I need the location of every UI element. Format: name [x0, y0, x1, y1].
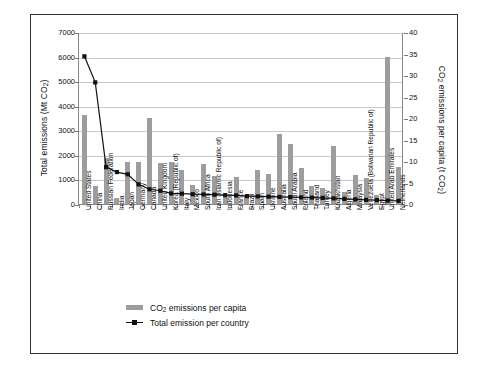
x-axis-label: Japan — [129, 192, 136, 210]
y-axis-right-tick-label: 20 — [409, 115, 439, 123]
x-axis-label: India — [119, 196, 126, 210]
x-axis-label: Korea (Republic of) — [173, 153, 180, 210]
x-axis-label: Mexico — [194, 189, 201, 210]
y-axis-right-tick-mark — [404, 141, 408, 142]
x-axis-label: Turkey — [324, 190, 331, 210]
x-axis-label: Brazil — [249, 194, 256, 211]
x-axis-label: Poland — [303, 189, 310, 210]
y-axis-right-tick-label: 10 — [409, 158, 439, 166]
line-path — [84, 56, 398, 200]
legend-label-total: Total emission per country — [150, 318, 249, 328]
x-axis-label: China — [97, 193, 104, 210]
x-axis-tick-mark — [79, 205, 80, 208]
x-axis-label: Saudi Arabia — [292, 173, 299, 210]
x-axis-label: Netherlands — [400, 174, 407, 210]
y-axis-right-tick-label: 35 — [409, 51, 439, 59]
x-axis-label: Russian Federation — [108, 153, 115, 210]
y-axis-right-tick-mark — [404, 76, 408, 77]
x-axis-label: Spain — [259, 193, 266, 210]
x-axis-label: Kazakhstan — [335, 176, 342, 210]
y-axis-left-tick-label: 3000 — [35, 127, 75, 135]
x-axis-label: Venezuela (Bolivarian Republic of) — [368, 109, 375, 210]
y-axis-left-tick-label: 0 — [35, 201, 75, 209]
y-axis-right-tick-label: 30 — [409, 72, 439, 80]
line-marker — [82, 54, 86, 58]
legend-label-per-capita: CO2 emissions per capita — [150, 303, 246, 313]
y-axis-right-tick-mark — [404, 98, 408, 99]
y-axis-right-tick-label: 15 — [409, 137, 439, 145]
x-axis-label: Thailand — [314, 185, 321, 210]
x-axis-label: United Kingdom — [162, 163, 169, 210]
line-marker — [93, 80, 97, 84]
x-axis-label: Egypt — [379, 193, 386, 210]
y-axis-left-tick-label: 7000 — [35, 29, 75, 37]
legend-bar-swatch-icon — [126, 305, 143, 310]
x-axis-label: South Africa — [205, 174, 212, 210]
legend-line-square-icon — [126, 319, 143, 326]
y-axis-left-tick-label: 1000 — [35, 176, 75, 184]
y-axis-left-tick-label: 6000 — [35, 54, 75, 62]
x-axis-label: Ukraine — [270, 187, 277, 210]
x-axis-label: Germany — [140, 183, 147, 210]
x-axis-label: Canada — [151, 187, 158, 210]
x-axis-label: Indonesia — [227, 181, 234, 210]
x-axis-label: Algeria — [346, 189, 353, 210]
y-axis-right-tick-mark — [404, 162, 408, 163]
y-axis-right-tick-mark — [404, 55, 408, 56]
line-marker — [115, 170, 119, 174]
y-axis-right-tick-mark — [404, 33, 408, 34]
y-axis-left-tick-label: 2000 — [35, 152, 75, 160]
y-axis-left-tick-label: 4000 — [35, 103, 75, 111]
legend-item-bars: CO2 emissions per capita — [126, 300, 249, 315]
y-axis-left-tick-label: 5000 — [35, 78, 75, 86]
x-axis-label: Malaysia — [357, 184, 364, 210]
plot-area: 01000200030004000500060007000 0510152025… — [78, 33, 403, 205]
legend-item-line: Total emission per country — [126, 315, 249, 330]
y-axis-right-tick-label: 25 — [409, 94, 439, 102]
x-axis-label: Italy — [184, 198, 191, 210]
chart-legend: CO2 emissions per capita Total emission … — [126, 300, 249, 330]
x-axis-label: France — [238, 189, 245, 210]
figure-frame: Total emissions (Mt CO2) CO2 emissions p… — [30, 14, 458, 354]
y-axis-right-tick-label: 40 — [409, 29, 439, 37]
x-axis-label: United Arab Emirates — [389, 148, 396, 210]
y-axis-right-tick-mark — [404, 119, 408, 120]
y-axis-right-tick-label: 0 — [409, 201, 439, 209]
line-marker — [126, 172, 130, 176]
line-marker — [180, 192, 184, 196]
x-axis-label: Australia — [281, 184, 288, 210]
x-axis-label: Iran (Islamic Republic of) — [216, 137, 223, 210]
x-axis-label: United States — [86, 170, 93, 210]
line-series — [79, 33, 404, 205]
y-axis-right-tick-label: 5 — [409, 180, 439, 188]
